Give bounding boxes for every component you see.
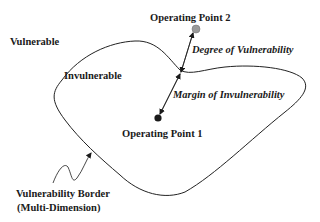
margin-of-invulnerability-label: Margin of Invulnerability <box>173 89 284 101</box>
operating-point-1-label: Operating Point 1 <box>122 128 203 140</box>
vulnerable-region-label: Vulnerable <box>10 36 59 48</box>
invulnerable-region-label: Invulnerable <box>64 70 122 82</box>
operating-point-2-label: Operating Point 2 <box>150 12 231 24</box>
operating-point-1-marker <box>154 114 161 121</box>
vulnerability-border-label: Vulnerability Border <box>16 188 110 200</box>
operating-point-2-marker <box>192 25 200 33</box>
degree-of-vulnerability-label: Degree of Vulnerability <box>192 44 294 56</box>
vulnerability-border-curve <box>54 41 306 195</box>
border-pointer-squiggle <box>53 153 91 183</box>
multi-dimension-label: (Multi-Dimension) <box>17 202 100 214</box>
